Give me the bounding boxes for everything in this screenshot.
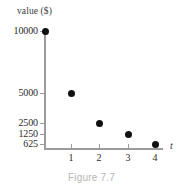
- x-tick-mark: [71, 144, 72, 149]
- x-tick-label: 4: [145, 152, 165, 163]
- x-tick-mark: [99, 144, 100, 149]
- data-point: [96, 120, 103, 127]
- y-tick-label: 10000: [13, 25, 38, 36]
- x-tick-mark: [128, 144, 129, 149]
- figure-container: value ($) t 10000 5000 2500 1250 625 1 2: [0, 0, 183, 194]
- y-tick-label: 2500: [18, 117, 38, 128]
- y-tick-label: 625: [23, 138, 38, 149]
- figure-caption: Figure 7.7: [0, 172, 183, 183]
- x-tick-label: 3: [118, 152, 138, 163]
- y-tick-mark: [40, 144, 45, 145]
- scatter-plot: value ($) t 10000 5000 2500 1250 625 1 2: [0, 0, 183, 170]
- x-tick-label: 1: [61, 152, 81, 163]
- data-point: [42, 28, 49, 35]
- data-point: [152, 141, 159, 148]
- x-axis-title: t: [170, 140, 173, 151]
- x-tick-label: 2: [89, 152, 109, 163]
- x-axis-line: [44, 148, 163, 150]
- data-point: [68, 90, 75, 97]
- y-tick-mark: [40, 134, 45, 135]
- data-point: [125, 131, 132, 138]
- y-tick-label: 5000: [18, 87, 38, 98]
- y-tick-mark: [40, 93, 45, 94]
- y-tick-mark: [40, 123, 45, 124]
- y-axis-title: value ($): [17, 6, 52, 16]
- y-axis-line: [44, 28, 46, 149]
